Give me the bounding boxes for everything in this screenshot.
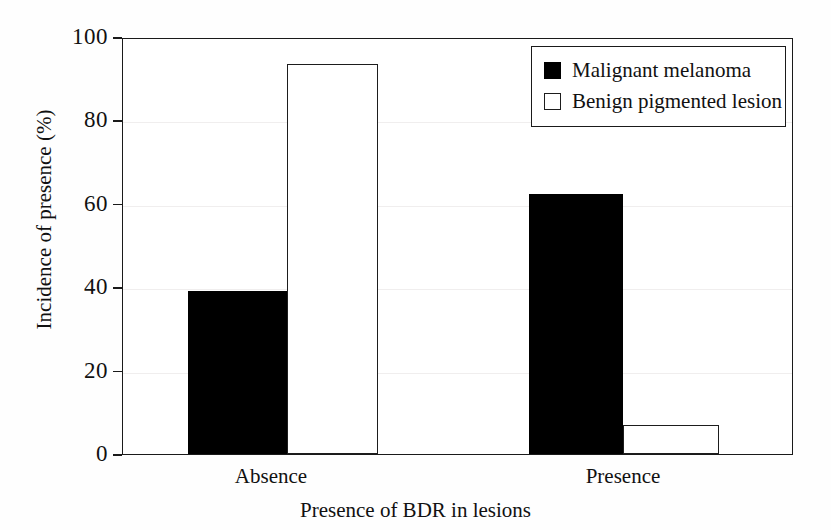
bar-absence-malignant-melanoma [188, 291, 287, 454]
plot-area: Malignant melanoma Benign pigmented lesi… [122, 38, 793, 455]
gridline-40 [123, 289, 792, 290]
y-axis-title: Incidence of presence (%) [32, 75, 57, 365]
legend-item-benign-pigmented-lesion: Benign pigmented lesion [544, 86, 773, 117]
y-tick-label: 60 [84, 190, 108, 218]
bar-presence-malignant-melanoma [529, 194, 623, 454]
y-tick-mark [113, 37, 122, 39]
gridline-60 [123, 206, 792, 207]
y-tick-mark [113, 204, 122, 206]
filled-square-icon [544, 62, 561, 79]
y-tick-mark [113, 371, 122, 373]
y-tick-mark [113, 287, 122, 289]
y-tick-label: 80 [84, 106, 108, 134]
y-tick-mark [113, 120, 122, 122]
y-axis: 100 80 60 40 20 0 [0, 38, 122, 455]
open-square-icon [544, 93, 561, 110]
y-tick-label: 100 [72, 23, 108, 51]
y-tick-label: 20 [84, 357, 108, 385]
bar-chart-figure: 100 80 60 40 20 0 Incidence of presence … [0, 0, 831, 530]
legend-label: Benign pigmented lesion [572, 89, 782, 114]
y-tick-label: 40 [84, 273, 108, 301]
y-tick-mark [113, 454, 122, 456]
bar-absence-benign-pigmented-lesion [287, 64, 378, 454]
legend-item-malignant-melanoma: Malignant melanoma [544, 55, 773, 86]
x-tick-label-absence: Absence [181, 464, 361, 489]
legend: Malignant melanoma Benign pigmented lesi… [531, 46, 786, 127]
x-tick-label-presence: Presence [533, 464, 713, 489]
x-axis-title: Presence of BDR in lesions [0, 498, 831, 523]
bar-presence-benign-pigmented-lesion [623, 425, 719, 454]
y-tick-label: 0 [96, 440, 108, 468]
legend-label: Malignant melanoma [572, 58, 751, 83]
